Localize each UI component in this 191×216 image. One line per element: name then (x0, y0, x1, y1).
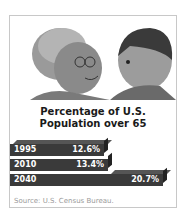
source-note: Source: U.S. Census Bureau. (14, 197, 114, 205)
bar-2010: 2010 13.4% (10, 159, 108, 171)
bar-1995: 1995 12.6% (10, 144, 104, 156)
bar-2040: 2040 20.7% (10, 174, 163, 186)
chart-title: Percentage of U.S. Population over 65 (10, 106, 176, 130)
bar-side-face (163, 168, 167, 183)
bar-side-face (108, 153, 112, 168)
photo-grandmother-and-child (10, 16, 176, 100)
bar-side-face (104, 138, 108, 153)
chart-card: Percentage of U.S. Population over 65 19… (9, 15, 177, 208)
